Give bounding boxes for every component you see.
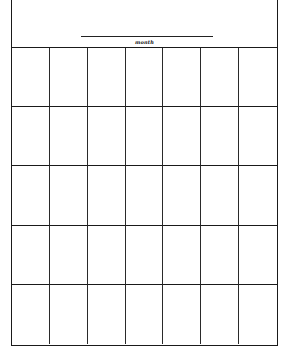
- month-write-in-line[interactable]: [81, 36, 213, 37]
- day-cell[interactable]: [126, 226, 164, 285]
- day-cell[interactable]: [163, 48, 201, 107]
- day-cell[interactable]: [12, 226, 50, 285]
- day-cell[interactable]: [88, 48, 126, 107]
- day-cell[interactable]: [50, 226, 88, 285]
- day-cell[interactable]: [12, 166, 50, 225]
- day-cell[interactable]: [12, 48, 50, 107]
- day-cell[interactable]: [239, 107, 277, 166]
- day-cell[interactable]: [163, 226, 201, 285]
- day-cell[interactable]: [12, 285, 50, 344]
- day-cell[interactable]: [50, 48, 88, 107]
- day-cell[interactable]: [201, 285, 239, 344]
- day-cell[interactable]: [239, 166, 277, 225]
- day-cell[interactable]: [163, 285, 201, 344]
- day-cell[interactable]: [201, 166, 239, 225]
- day-cell[interactable]: [88, 285, 126, 344]
- day-cell[interactable]: [126, 285, 164, 344]
- day-cell[interactable]: [50, 166, 88, 225]
- day-cell[interactable]: [50, 107, 88, 166]
- day-cell[interactable]: [201, 48, 239, 107]
- day-cell[interactable]: [163, 107, 201, 166]
- day-cell[interactable]: [88, 166, 126, 225]
- day-cell[interactable]: [126, 107, 164, 166]
- day-cell[interactable]: [201, 107, 239, 166]
- month-label: month: [12, 39, 277, 45]
- calendar-page: month: [11, 0, 278, 346]
- day-cell[interactable]: [88, 226, 126, 285]
- day-cell[interactable]: [201, 226, 239, 285]
- day-cell[interactable]: [12, 107, 50, 166]
- day-cell[interactable]: [163, 166, 201, 225]
- day-cell[interactable]: [126, 166, 164, 225]
- day-cell[interactable]: [88, 107, 126, 166]
- day-cell[interactable]: [50, 285, 88, 344]
- day-cell[interactable]: [126, 48, 164, 107]
- calendar-header: month: [12, 0, 277, 48]
- calendar-grid: [12, 48, 277, 344]
- day-cell[interactable]: [239, 48, 277, 107]
- day-cell[interactable]: [239, 285, 277, 344]
- day-cell[interactable]: [239, 226, 277, 285]
